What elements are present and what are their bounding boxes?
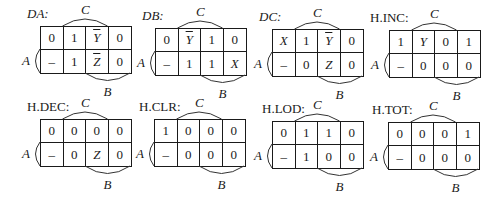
variable-label-b: B [452,180,460,196]
kmap-h-tot: H.TOT:0001–000CAB [0,0,122,95]
kmap-brackets [0,0,502,198]
variable-label-a: A [370,149,378,165]
variable-label-c: C [429,98,438,114]
